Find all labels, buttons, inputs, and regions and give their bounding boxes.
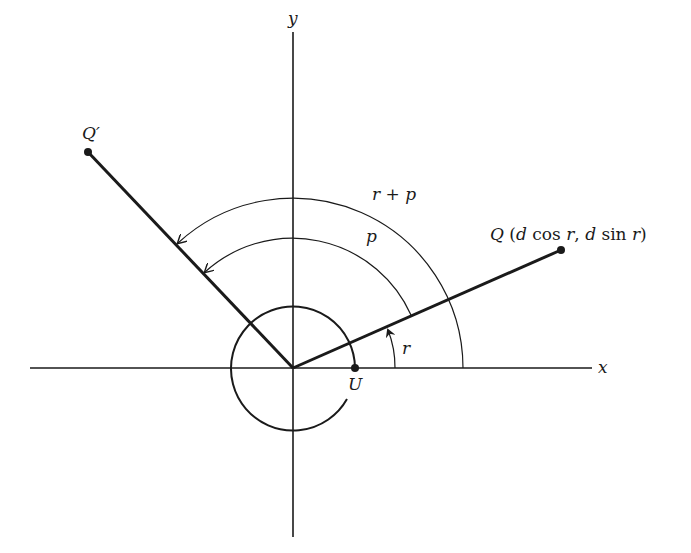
rotation-diagram: y x Q′ U r p r + p Q (d cos r, d sin r): [0, 0, 691, 553]
angle-r-label: r: [402, 338, 411, 358]
arc-p: [205, 238, 411, 315]
angle-p-label: p: [366, 226, 377, 246]
point-Q-prime: [84, 148, 92, 156]
point-Q-label: Q (d cos r, d sin r): [490, 224, 647, 244]
point-U-label: U: [348, 374, 363, 394]
arc-r: [388, 330, 395, 368]
x-axis-label: x: [598, 357, 608, 377]
y-axis-label: y: [287, 8, 298, 28]
point-U: [351, 364, 359, 372]
angle-r-plus-p-label: r + p: [372, 184, 416, 204]
arc-r-plus-p: [178, 198, 463, 368]
point-Q: [557, 246, 565, 254]
segment-OQ-prime: [88, 152, 293, 368]
point-Q-prime-label: Q′: [82, 123, 100, 143]
segment-OQ: [293, 250, 561, 368]
